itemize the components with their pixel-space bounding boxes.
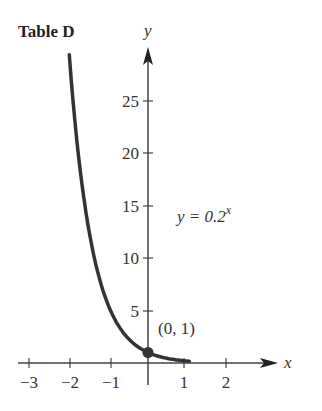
- x-axis-label: x: [283, 353, 292, 372]
- y-tick-label: 10: [122, 249, 139, 268]
- y-tick-label: 5: [131, 302, 140, 321]
- x-tick-label: −1: [102, 373, 120, 392]
- point-label: (0, 1): [158, 319, 195, 338]
- equation-exponent: x: [225, 203, 232, 217]
- equation-label: y = 0.2x: [175, 203, 232, 226]
- y-tick-label: 15: [122, 197, 139, 216]
- x-tick-label: 1: [180, 373, 189, 392]
- y-tick-label: 20: [122, 144, 139, 163]
- x-tick-label: −2: [61, 373, 79, 392]
- y-tick-label: 25: [122, 92, 139, 111]
- equation-lhs: y = 0.2: [175, 207, 226, 226]
- point-marker: [143, 347, 154, 358]
- plot-area: −3 −2 −1 1 2 25 20 15 10 5 x y (0, 1) y …: [0, 0, 322, 411]
- x-tick-label: −3: [20, 373, 38, 392]
- y-axis-label: y: [142, 21, 152, 40]
- x-tick-label: 2: [222, 373, 231, 392]
